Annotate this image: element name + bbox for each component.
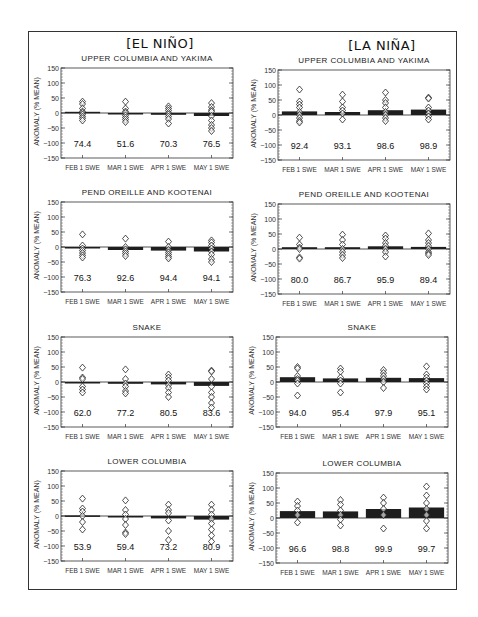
data-point-diamond [338, 522, 344, 529]
y-tick-label: −150 [260, 291, 276, 298]
y-tick-label: 150 [47, 334, 59, 341]
skill-annotation: 92.6 [117, 273, 135, 283]
x-category-label: MAR 1 SWE [107, 433, 144, 440]
data-point-diamond [166, 528, 172, 535]
x-category-label: MAR 1 SWE [107, 298, 144, 305]
y-tick-label: 150 [47, 199, 59, 206]
x-category-label: MAY 1 SWE [411, 300, 447, 307]
x-category-label: MAY 1 SWE [409, 569, 445, 576]
plot-area: 150100500−50−100−15080.0FEB 1 SWE86.7MAR… [238, 204, 450, 334]
plot-area: 150100500−50−100−15076.3FEB 1 SWE92.6MAR… [21, 202, 233, 332]
chart-panel-lower-columbia-la-nina: LOWER COLUMBIAANOMALY (% MEAN)150100500−… [236, 459, 448, 589]
data-point-diamond [424, 518, 430, 525]
x-category-label: MAY 1 SWE [194, 164, 230, 171]
data-point-diamond [340, 91, 346, 98]
x-category-label: MAR 1 SWE [324, 300, 361, 307]
data-point-diamond [123, 366, 129, 373]
y-tick-label: −100 [258, 545, 274, 552]
x-category-label: FEB 1 SWE [65, 567, 100, 574]
data-point-diamond [80, 526, 86, 533]
y-tick-label: 100 [47, 80, 59, 87]
x-category-label: MAR 1 SWE [322, 433, 359, 440]
y-tick-label: −50 [262, 530, 274, 537]
y-tick-label: −100 [258, 409, 274, 416]
data-point-diamond [123, 497, 129, 504]
skill-annotation: 89.4 [420, 275, 438, 285]
skill-annotation: 62.0 [74, 408, 92, 418]
data-point-diamond [166, 394, 172, 401]
y-tick-label: −150 [43, 155, 59, 162]
skill-annotation: 92.4 [291, 141, 309, 151]
skill-annotation: 53.9 [74, 542, 92, 552]
x-category-label: FEB 1 SWE [282, 166, 317, 173]
x-category-label: FEB 1 SWE [282, 300, 317, 307]
panel-title: UPPER COLUMBIA AND YAKIMA [61, 54, 233, 63]
chart-panel-upper-columbia-and-yakima-el-nino: UPPER COLUMBIA AND YAKIMAANOMALY (% MEAN… [21, 54, 233, 184]
skill-annotation: 97.9 [375, 408, 393, 418]
data-point-diamond [123, 235, 129, 242]
y-tick-label: −50 [47, 259, 59, 266]
plot-area: 150100500−50−100−15053.9FEB 1 SWE59.4MAR… [21, 471, 233, 601]
skill-annotation: 51.6 [117, 139, 135, 149]
skill-annotation: 73.2 [160, 542, 178, 552]
y-tick-label: 0 [270, 515, 274, 522]
data-point-diamond [340, 116, 346, 123]
data-point-diamond [297, 86, 303, 93]
data-point-diamond [426, 230, 432, 237]
y-tick-label: 50 [51, 498, 59, 505]
x-category-label: FEB 1 SWE [280, 569, 315, 576]
data-point-diamond [424, 363, 430, 370]
skill-annotation: 96.6 [289, 544, 307, 554]
skill-annotation: 70.3 [160, 139, 178, 149]
x-category-label: MAY 1 SWE [411, 166, 447, 173]
y-tick-label: −150 [258, 560, 274, 567]
skill-annotation: 98.9 [420, 141, 438, 151]
y-tick-label: 150 [262, 470, 274, 477]
x-category-label: APR 1 SWE [368, 166, 404, 173]
y-tick-label: −150 [43, 289, 59, 296]
y-tick-label: −100 [43, 140, 59, 147]
skill-annotation: 59.4 [117, 542, 135, 552]
y-tick-label: 0 [272, 112, 276, 119]
panel-title: PEND OREILLE AND KOOTENAI [61, 188, 233, 197]
plot-area: 150100500−50−100−15094.0FEB 1 SWE95.4MAR… [236, 337, 448, 467]
skill-annotation: 76.3 [74, 273, 92, 283]
skill-annotation: 83.6 [203, 408, 221, 418]
y-tick-label: 100 [264, 216, 276, 223]
skill-annotation: 80.0 [291, 275, 309, 285]
data-point-diamond [80, 495, 86, 502]
y-tick-label: −150 [258, 424, 274, 431]
x-category-label: MAY 1 SWE [409, 433, 445, 440]
skill-annotation: 94.4 [160, 273, 178, 283]
chart-panel-upper-columbia-and-yakima-la-nina: UPPER COLUMBIA AND YAKIMAANOMALY (% MEAN… [238, 56, 450, 186]
data-point-diamond [80, 519, 86, 526]
data-point-diamond [338, 389, 344, 396]
plot-area: 150100500−50−100−15074.4FEB 1 SWE51.6MAR… [21, 68, 233, 198]
data-point-diamond [80, 231, 86, 238]
x-category-label: MAY 1 SWE [194, 298, 230, 305]
y-tick-label: −150 [260, 157, 276, 164]
y-tick-label: −50 [47, 394, 59, 401]
skill-annotation: 94.0 [289, 408, 307, 418]
x-category-label: MAR 1 SWE [324, 166, 361, 173]
x-category-label: APR 1 SWE [366, 569, 402, 576]
skill-annotation: 93.1 [334, 141, 352, 151]
y-tick-label: 150 [47, 468, 59, 475]
y-tick-label: 50 [268, 231, 276, 238]
data-point-diamond [209, 376, 215, 383]
y-tick-label: 100 [262, 485, 274, 492]
x-category-label: MAY 1 SWE [194, 567, 230, 574]
y-tick-label: −100 [260, 142, 276, 149]
chart-panel-snake-la-nina: SNAKEANOMALY (% MEAN)150100500−50−100−15… [236, 323, 448, 453]
chart-panel-pend-oreille-and-kootenai-el-nino: PEND OREILLE AND KOOTENAIANOMALY (% MEAN… [21, 188, 233, 318]
skill-annotation: 94.1 [203, 273, 221, 283]
data-point-diamond [381, 525, 387, 532]
skill-annotation: 74.4 [74, 139, 92, 149]
y-tick-label: 150 [264, 67, 276, 74]
data-point-diamond [424, 492, 430, 499]
y-tick-label: 100 [47, 214, 59, 221]
panel-title: PEND OREILLE AND KOOTENAI [278, 190, 450, 199]
data-point-diamond [166, 120, 172, 127]
skill-annotation: 95.4 [332, 408, 350, 418]
panel-title: SNAKE [61, 323, 233, 332]
